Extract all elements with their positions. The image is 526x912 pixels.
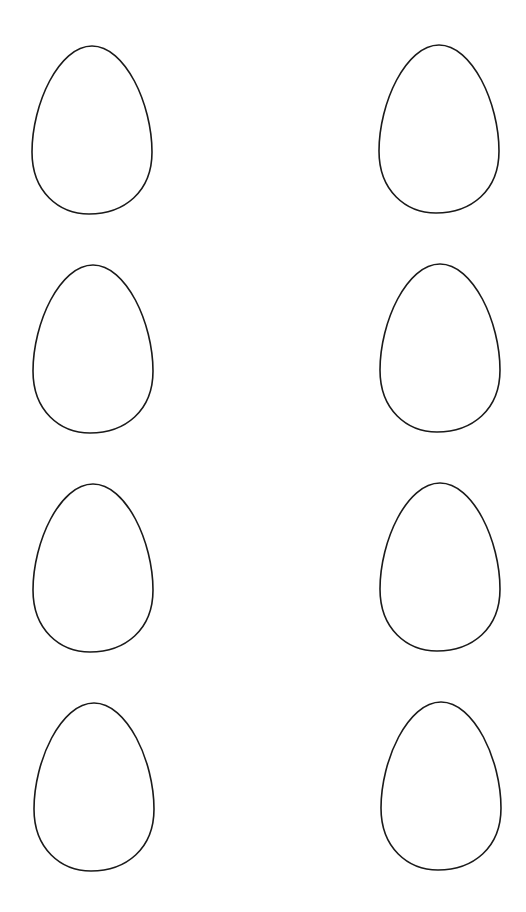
egg-shape-icon xyxy=(30,482,156,654)
egg-outline-2 xyxy=(376,43,502,215)
egg-shape-icon xyxy=(29,44,155,216)
egg-outline-8 xyxy=(378,700,504,872)
egg-outline-4 xyxy=(377,262,503,434)
egg-shape-icon xyxy=(376,43,502,215)
egg-outline-3 xyxy=(30,263,156,435)
egg-outline-6 xyxy=(377,481,503,653)
egg-outline-7 xyxy=(31,701,157,873)
egg-shape-icon xyxy=(377,262,503,434)
egg-shape-icon xyxy=(30,263,156,435)
egg-outline-1 xyxy=(29,44,155,216)
egg-shape-icon xyxy=(378,700,504,872)
egg-outline-5 xyxy=(30,482,156,654)
egg-shape-icon xyxy=(31,701,157,873)
egg-shape-icon xyxy=(377,481,503,653)
